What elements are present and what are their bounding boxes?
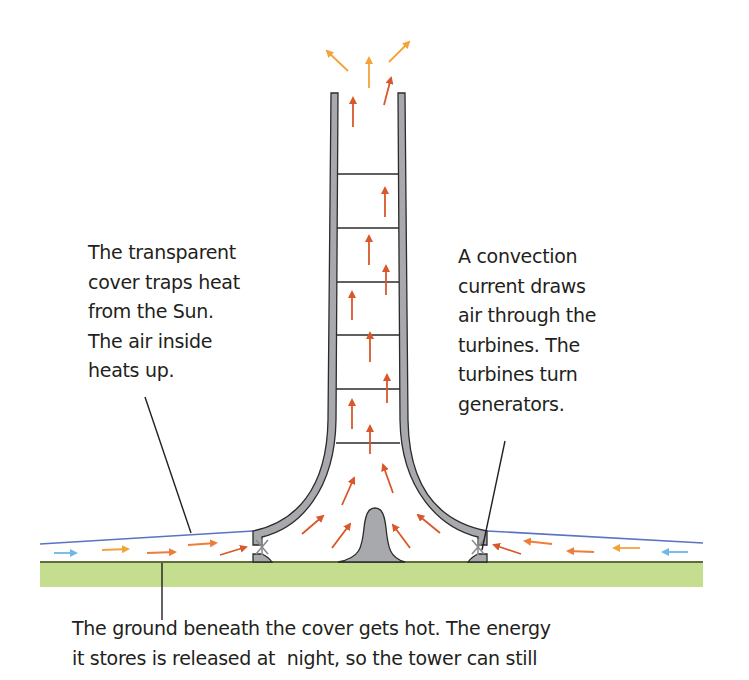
label-line: it stores is released at night, so the t… xyxy=(72,644,551,674)
label-line: A convection xyxy=(458,242,596,272)
ground xyxy=(40,562,703,587)
label-line: The air inside xyxy=(88,327,240,357)
label-line: turbines. The xyxy=(458,331,596,361)
label-line: The transparent xyxy=(88,238,240,268)
airflow-arrows-shaft xyxy=(352,78,391,454)
central-mound xyxy=(338,508,405,562)
airflow-arrows-right xyxy=(494,541,688,554)
tower-left-wall xyxy=(253,93,338,545)
label-line: generators. xyxy=(458,390,596,420)
label-line: current draws xyxy=(458,272,596,302)
leader-cover xyxy=(145,397,191,533)
label-line: turbines turn xyxy=(458,360,596,390)
label-line: cover traps heat xyxy=(88,268,240,298)
label-transparent-cover: The transparentcover traps heatfrom the … xyxy=(88,238,240,386)
label-line: The ground beneath the cover gets hot. T… xyxy=(72,614,551,644)
airflow-arrows-exit xyxy=(327,42,409,88)
label-ground-heat: The ground beneath the cover gets hot. T… xyxy=(72,614,551,673)
turbine-base-right xyxy=(468,554,487,562)
turbine-base-left xyxy=(253,554,272,562)
airflow-arrows-left xyxy=(54,543,246,555)
label-line: air through the xyxy=(458,301,596,331)
label-line: from the Sun. xyxy=(88,297,240,327)
turbine-left-icon xyxy=(256,539,268,555)
label-line: heats up. xyxy=(88,356,240,386)
leader-turbine xyxy=(482,441,505,550)
label-convection-turbines: A convectioncurrent drawsair through the… xyxy=(458,242,596,419)
tower xyxy=(253,93,487,562)
cross-braces xyxy=(336,174,400,443)
